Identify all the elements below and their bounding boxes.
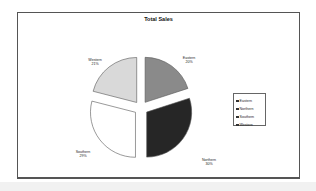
legend-swatch-northern [236,108,239,111]
label-pct: 21% [83,62,107,66]
chart-legend: Eastern Northern Southern Western [233,93,266,126]
label-pct: 30% [197,162,221,166]
legend-label: Southern [240,115,255,119]
legend-label: Eastern [240,99,252,103]
legend-item-northern: Northern [236,105,265,113]
legend-label: Northern [240,107,254,111]
legend-label: Western [240,123,253,127]
label-pct: 20% [177,60,201,64]
slice-label-eastern: Eastern 20% [177,56,201,64]
legend-item-eastern: Eastern [236,97,265,105]
pie-slice-northern [147,98,192,157]
legend-item-western: Western [236,121,265,129]
chart-background: Total Sales Eastern 20% Northern 30% Sou… [0,0,316,182]
slice-label-western: Western 21% [83,58,107,66]
chart-area: Total Sales Eastern 20% Northern 30% Sou… [17,12,300,179]
legend-swatch-eastern [236,100,239,103]
legend-swatch-southern [236,116,239,119]
slice-label-southern: Southern 29% [71,150,95,158]
label-pct: 29% [71,154,95,158]
legend-swatch-western [236,124,239,127]
pie-slice-southern [90,101,135,157]
slice-label-northern: Northern 30% [197,158,221,166]
legend-item-southern: Southern [236,113,265,121]
